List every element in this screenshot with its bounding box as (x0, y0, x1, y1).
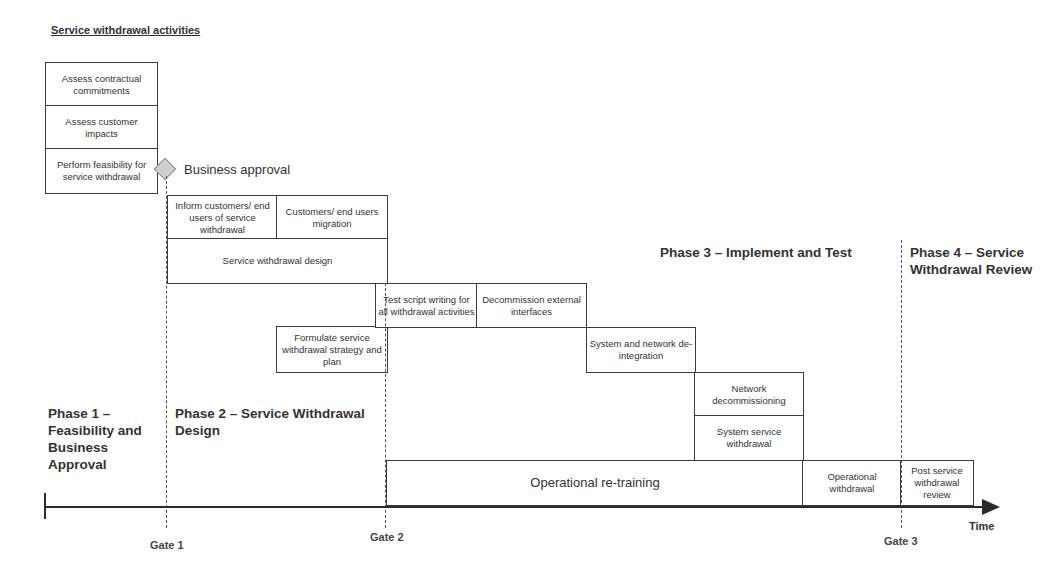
activity-inform-customers: Inform customers/ end users of service w… (167, 195, 278, 240)
activity-network-decommissioning: Network decommissioning (694, 372, 804, 417)
activity-assess-contractual: Assess contractual commitments (45, 62, 158, 107)
activity-operational-withdrawal: Operational withdrawal (802, 460, 902, 506)
activity-decommission-external: Decommission external interfaces (476, 283, 587, 328)
activity-system-withdrawal: System service withdrawal (694, 415, 804, 461)
time-axis (44, 506, 986, 508)
gate-1-line (166, 176, 167, 528)
activity-feasibility: Perform feasibility for service withdraw… (45, 148, 158, 194)
diagram-title: Service withdrawal activities (51, 24, 200, 36)
gate-2-label: Gate 2 (370, 531, 404, 543)
activity-deintegration: System and network de-integration (586, 327, 696, 373)
phase-4-label: Phase 4 – Service Withdrawal Review (910, 244, 1050, 278)
gate-1-label: Gate 1 (150, 539, 184, 551)
activity-customer-migration: Customers/ end users migration (276, 195, 388, 240)
phase-3-label: Phase 3 – Implement and Test (660, 244, 880, 261)
activity-post-review: Post service withdrawal review (900, 460, 974, 506)
activity-test-script: Test script writing for all withdrawal a… (375, 283, 478, 328)
gate-3-line (901, 240, 902, 528)
phase-1-label: Phase 1 – Feasibility and Business Appro… (48, 405, 158, 473)
milestone-business-approval: Business approval (184, 162, 290, 177)
gate-3-label: Gate 3 (884, 535, 918, 547)
activity-assess-customer: Assess customer impacts (45, 105, 158, 150)
phase-2-label: Phase 2 – Service Withdrawal Design (175, 405, 385, 439)
gate-2-line (385, 283, 386, 528)
activity-operational-retraining: Operational re-training (386, 460, 804, 506)
activity-strategy: Formulate service withdrawal strategy an… (276, 326, 388, 373)
arrow-right-icon (982, 499, 1000, 515)
axis-label-time: Time (969, 520, 994, 532)
activity-design: Service withdrawal design (167, 238, 388, 284)
